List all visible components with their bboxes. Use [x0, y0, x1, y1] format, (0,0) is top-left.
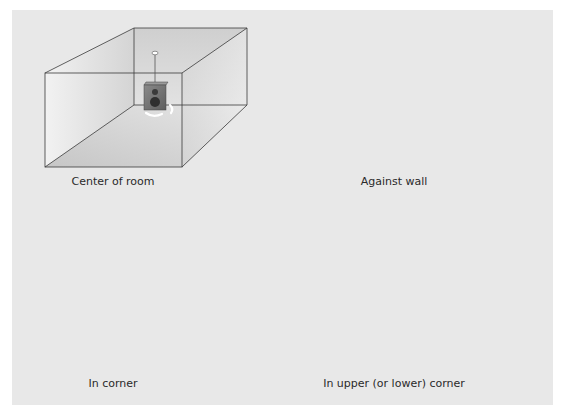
- room-center: [45, 28, 247, 167]
- caption-in-upper-corner: In upper (or lower) corner: [323, 378, 465, 389]
- caption-in-corner: In corner: [88, 378, 137, 389]
- caption-against-wall: Against wall: [361, 176, 428, 187]
- caption-center-of-room: Center of room: [71, 176, 154, 187]
- speaker-placement-diagram: [0, 0, 565, 417]
